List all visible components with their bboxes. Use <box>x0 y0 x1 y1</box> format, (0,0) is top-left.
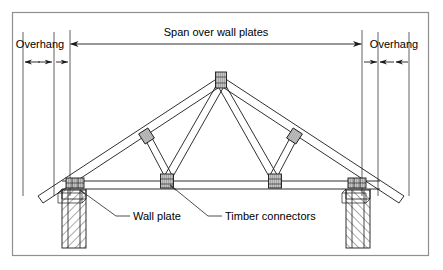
span-label: Span over wall plates <box>164 26 269 38</box>
overhang-left-label: Overhang <box>16 38 64 50</box>
roof-truss-diagram: Span over wall plates Overhang Overhang <box>0 0 443 270</box>
overhang-right-label: Overhang <box>370 38 418 50</box>
timber-connector-bottom-right <box>269 174 282 188</box>
callout-label-wall-plate: Wall plate <box>133 210 181 222</box>
callout-label-timber-connectors: Timber connectors <box>225 210 316 222</box>
apex-timber-connector <box>216 72 227 88</box>
figure-root: Span over wall plates Overhang Overhang <box>0 0 443 270</box>
